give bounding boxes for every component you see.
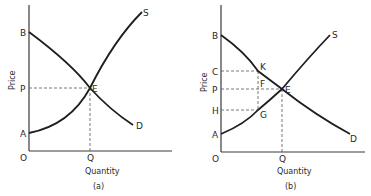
panel-b-origin: O [212,154,219,164]
panel-b-tick-a: A [212,130,219,140]
panel-a-tick-p: P [20,84,26,94]
panel-b-point-k: K [260,62,267,72]
panel-a-supply-curve [29,12,142,133]
panel-a-tick-a: A [20,129,27,139]
panel-b-supply-label: S [332,30,338,40]
panel-b-x-axis-label: Quantity [277,167,312,176]
panel-a-origin: O [20,153,27,163]
panel-b-demand-label: D [350,134,357,144]
panel-b-point-e: E [285,85,291,95]
panel-b-tick-h: H [212,106,219,116]
panel-a-tick-q: Q [87,153,94,163]
panel-a-point-e: E [92,84,98,94]
panel-b-y-axis-label: Price [200,72,209,92]
panel-a-tick-b: B [20,28,26,38]
panel-b-tick-q: Q [279,154,286,164]
panel-b-tick-p: P [212,85,218,95]
panel-b-point-g: G [260,110,267,120]
panel-b: B C P H A O Q K F G E S D Price Quantity… [200,5,365,191]
panel-a-y-axis-label: Price [8,70,17,90]
panel-b-point-f: F [260,79,265,89]
panel-b-tick-b: B [212,31,218,41]
panel-a-demand-label: D [136,121,143,131]
panel-a-demand-curve [29,32,133,125]
panel-b-tick-c: C [212,67,218,77]
panel-a: B P A O Q E S D Price Quantity (a) [8,5,172,191]
panel-a-x-axis-label: Quantity [85,167,120,176]
panel-a-caption: (a) [93,182,104,191]
panel-b-caption: (b) [285,182,296,191]
panel-a-supply-label: S [143,8,149,18]
supply-demand-diagrams: B P A O Q E S D Price Quantity (a) B C P… [0,0,371,196]
